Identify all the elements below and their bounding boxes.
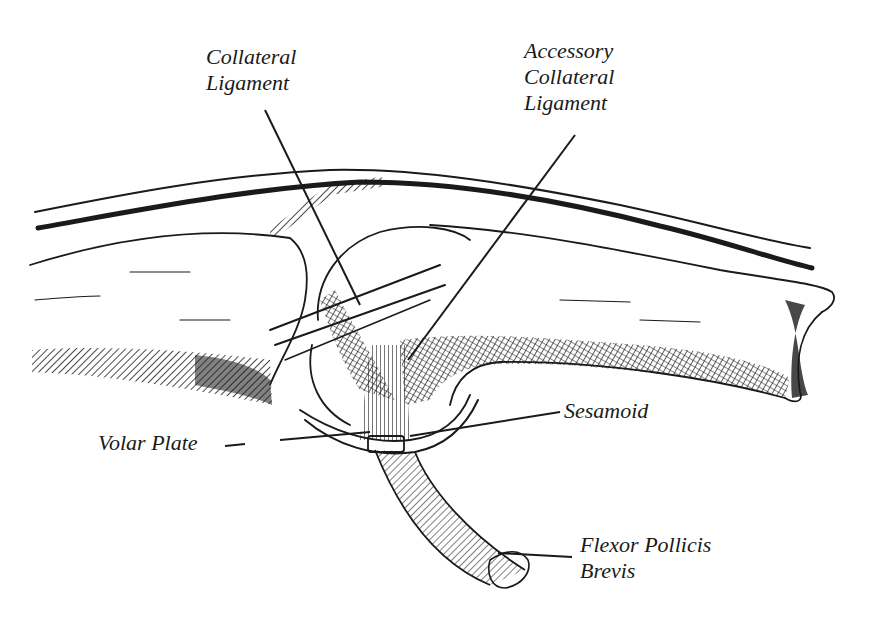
leader-sesamoid — [410, 412, 560, 436]
label-line: Collateral — [206, 44, 296, 70]
label-volar-plate: Volar Plate — [98, 430, 198, 456]
leader-collateral-ligament — [265, 110, 360, 305]
label-line: Volar Plate — [98, 430, 198, 456]
thumb-joint-illustration — [0, 0, 871, 624]
label-sesamoid: Sesamoid — [564, 398, 648, 424]
label-line: Sesamoid — [564, 398, 648, 424]
label-collateral-ligament: Collateral Ligament — [206, 44, 296, 96]
label-line: Brevis — [580, 558, 711, 584]
leader-accessory-collateral-ligament — [408, 135, 575, 360]
label-line: Collateral — [524, 64, 614, 90]
label-accessory-collateral-ligament: Accessory Collateral Ligament — [524, 38, 614, 116]
label-line: Accessory — [524, 38, 614, 64]
leader-flexor-pollicis-brevis — [498, 553, 572, 557]
label-line: Flexor Pollicis — [580, 532, 711, 558]
anatomy-diagram: Collateral Ligament Accessory Collateral… — [0, 0, 871, 624]
label-line: Ligament — [524, 90, 614, 116]
leader-volar-plate-a — [225, 444, 245, 446]
label-line: Ligament — [206, 70, 296, 96]
label-flexor-pollicis-brevis: Flexor Pollicis Brevis — [580, 532, 711, 584]
